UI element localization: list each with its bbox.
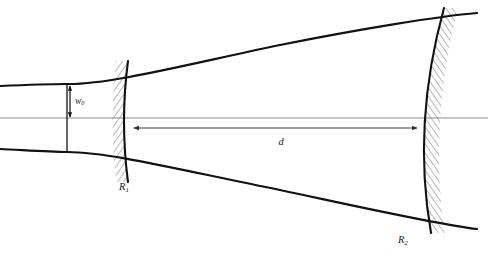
mirror-right-label-subscript: 2 bbox=[404, 239, 408, 246]
mirror-right-label: R2 bbox=[397, 234, 408, 246]
beam-waist-label-subscript: 0 bbox=[81, 99, 85, 106]
optical-resonator-figure: w0 R1 R2 d bbox=[0, 0, 488, 256]
mirror-left-label-subscript: 1 bbox=[125, 186, 128, 193]
figure-canvas: w0 R1 R2 d bbox=[0, 0, 488, 256]
beam-waist-label: w0 bbox=[75, 96, 85, 106]
mirror-right-hatching bbox=[425, 8, 458, 233]
beam-envelope-lower bbox=[0, 149, 477, 229]
separation-label: d bbox=[278, 136, 284, 147]
beam-envelope-upper bbox=[0, 13, 477, 86]
